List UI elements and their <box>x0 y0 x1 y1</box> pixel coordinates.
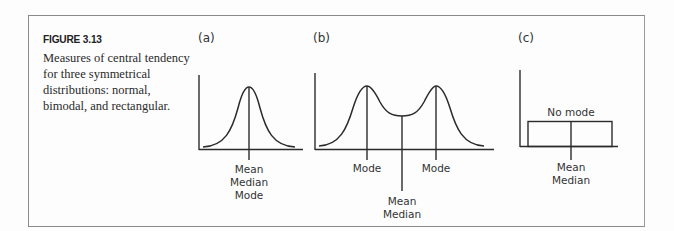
panel-b-label: (b) <box>313 31 330 45</box>
label-median: Median <box>230 176 268 188</box>
panel-a-label: (a) <box>198 31 215 45</box>
label-mean: Mean <box>388 195 417 207</box>
figure-diagrams: (a) Mean Median Mode (b) Mode Mode Mean … <box>0 0 674 231</box>
panel-c-rectangular: (c) No mode Mean Median <box>518 31 618 186</box>
label-left-mode: Mode <box>353 162 382 174</box>
label-mean: Mean <box>235 163 264 175</box>
panel-c-label: (c) <box>518 31 534 45</box>
label-mode: Mode <box>235 189 264 201</box>
label-median: Median <box>552 174 590 186</box>
label-median: Median <box>383 208 421 220</box>
label-mean: Mean <box>557 161 586 173</box>
rectangular-distribution <box>528 122 612 147</box>
panel-a-normal: (a) Mean Median Mode <box>198 31 303 201</box>
label-no-mode: No mode <box>547 106 594 118</box>
label-right-mode: Mode <box>422 162 451 174</box>
panel-b-bimodal: (b) Mode Mode Mean Median <box>313 31 494 220</box>
